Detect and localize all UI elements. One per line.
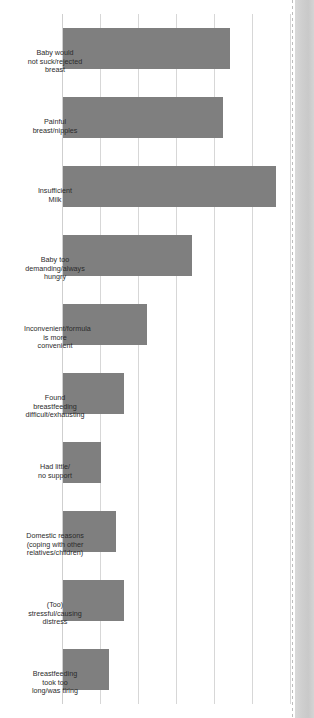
bar-slot: [63, 373, 291, 414]
bar-slot: [63, 649, 291, 690]
figure-page: 051015202530 Baby would not suck/rejecte…: [0, 0, 314, 718]
category-label: Painful breast/nipples: [24, 118, 86, 135]
category-label: Baby too demanding/always hungry: [24, 256, 86, 282]
category-label: Domestic reasons (coping with other rela…: [24, 532, 86, 558]
bar-slot: [63, 304, 291, 345]
page-gutter-dashed-rule: [292, 0, 293, 718]
bar[interactable]: [63, 166, 276, 207]
category-label: Found breastfeeding difficult/exhausting: [24, 394, 86, 420]
category-label: Breastfeeding took too long/was tiring: [24, 670, 86, 696]
category-label: Inconvenient/formula is more convenient: [24, 325, 86, 351]
category-label: Baby would not suck/rejected breast: [24, 49, 86, 75]
category-label: (Too) stressful/causing distress: [24, 601, 86, 627]
bar-slot: [63, 28, 291, 69]
bar[interactable]: [63, 97, 223, 138]
bar-slot: [63, 235, 291, 276]
bar-chart: 051015202530 Baby would not suck/rejecte…: [23, 14, 291, 704]
bar-slot: [63, 580, 291, 621]
bar-slot: [63, 442, 291, 483]
plot-area: [63, 14, 291, 704]
bar-slot: [63, 97, 291, 138]
category-label: Had little/ no support: [24, 463, 86, 480]
bar[interactable]: [63, 28, 230, 69]
category-label: Insufficient Milk: [24, 187, 86, 204]
rotated-chart-stage: 051015202530 Baby would not suck/rejecte…: [23, 14, 291, 704]
bars-group: [63, 14, 291, 704]
bar-slot: [63, 511, 291, 552]
page-gutter-band: [295, 0, 314, 718]
bar-slot: [63, 166, 291, 207]
